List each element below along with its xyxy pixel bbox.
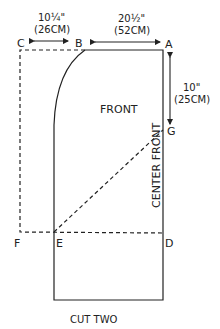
point-d: D bbox=[165, 237, 173, 250]
point-e: E bbox=[56, 237, 63, 250]
dim-ba-cm: (52CM) bbox=[114, 25, 150, 36]
dim-ba-inches: 20½" bbox=[118, 13, 145, 24]
point-a: A bbox=[165, 38, 173, 51]
point-c: C bbox=[17, 37, 25, 50]
point-g: G bbox=[167, 125, 176, 138]
dim-cb-cm: (26CM) bbox=[34, 24, 70, 35]
point-f: F bbox=[14, 237, 20, 250]
dim-cb-inches: 10¼" bbox=[38, 12, 65, 23]
piece-label: FRONT bbox=[100, 103, 138, 116]
fold-label: CENTER FRONT bbox=[150, 122, 163, 208]
dim-ag-cm: (25CM) bbox=[174, 94, 210, 105]
cut-instruction: CUT TWO bbox=[70, 314, 118, 325]
point-b: B bbox=[75, 37, 83, 50]
dim-ag-inches: 10" bbox=[183, 82, 200, 93]
